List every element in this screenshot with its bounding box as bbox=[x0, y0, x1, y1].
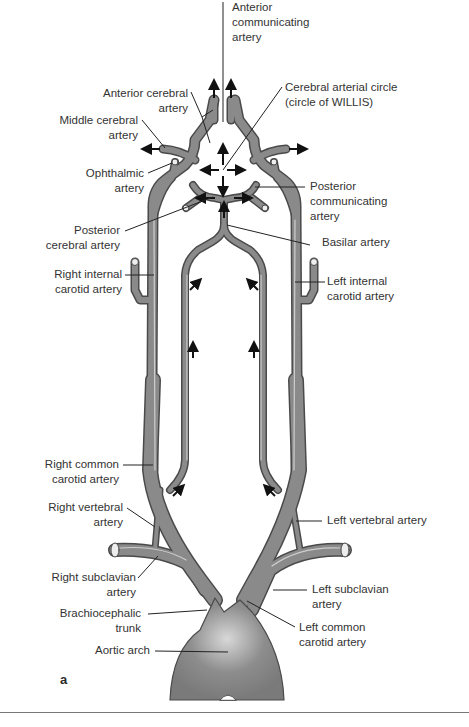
label-aortic-arch: Aortic arch bbox=[40, 643, 150, 658]
label-left-internal-carotid-artery: Left internal carotid artery bbox=[327, 274, 394, 304]
label-ophthalmic-artery: Ophthalmic artery bbox=[60, 166, 144, 196]
label-anterior-cerebral-artery: Anterior cerebral artery bbox=[88, 86, 188, 116]
label-left-subclavian-artery: Left subclavian artery bbox=[312, 582, 389, 612]
label-posterior-communicating-artery: Posterior communicating artery bbox=[310, 179, 387, 224]
label-middle-cerebral-artery: Middle cerebral artery bbox=[36, 113, 138, 143]
label-right-common-carotid-artery: Right common carotid artery bbox=[20, 457, 119, 487]
label-right-subclavian-artery: Right subclavian artery bbox=[20, 570, 136, 600]
label-left-common-carotid-artery: Left common carotid artery bbox=[299, 620, 366, 650]
label-circle-of-willis: Cerebral arterial circle (circle of WILL… bbox=[285, 80, 397, 110]
label-right-internal-carotid-artery: Right internal carotid artery bbox=[20, 267, 122, 297]
bottom-divider bbox=[0, 712, 469, 713]
panel-label: a bbox=[60, 672, 67, 687]
label-basilar-artery: Basilar artery bbox=[322, 235, 390, 250]
label-right-vertebral-artery: Right vertebral artery bbox=[20, 500, 123, 530]
label-posterior-cerebral-artery: Posterior cerebral artery bbox=[20, 223, 120, 253]
label-left-vertebral-artery: Left vertebral artery bbox=[327, 513, 427, 528]
label-anterior-communicating-artery: Anterior communicating artery bbox=[232, 0, 309, 45]
label-brachiocephalic-trunk: Brachiocephalic trunk bbox=[20, 606, 141, 636]
